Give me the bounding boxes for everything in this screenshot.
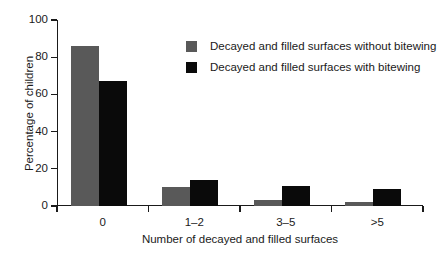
bar [282,186,310,206]
x-axis-tick-label: 0 [57,216,149,229]
x-axis-tick [56,206,57,212]
legend-item-label: Decayed and filled surfaces without bite… [210,40,436,53]
bar [254,200,282,206]
bar-chart-figure: 020406080100 01–23–5>5 Number of decayed… [0,0,438,254]
y-axis-tick-label-wrap: 100 [0,14,48,26]
y-axis-tick-label: 0 [4,200,48,212]
y-axis-tick-label-wrap: 0 [0,200,48,212]
y-axis-tick-label: 100 [4,14,48,26]
bar [162,187,190,206]
legend-swatch-icon [186,62,197,73]
x-axis-tick [422,206,423,212]
bar [71,46,99,206]
bar [190,180,218,206]
legend-item: Decayed and filled surfaces without bite… [186,38,436,55]
bar [99,81,127,206]
bar [373,189,401,206]
x-axis-title: Number of decayed and filled surfaces [57,233,423,246]
x-axis-tick [239,206,240,212]
x-axis-tick-label: >5 [332,216,424,229]
x-axis-tick-label: 1–2 [149,216,241,229]
x-axis-tick [148,206,149,212]
chart-legend: Decayed and filled surfaces without bite… [186,38,436,80]
y-axis-title: Percentage of children [23,39,36,189]
x-axis-tick [331,206,332,212]
legend-swatch-icon [186,41,197,52]
legend-item: Decayed and filled surfaces with bitewin… [186,59,436,76]
bar [345,202,373,206]
legend-item-label: Decayed and filled surfaces with bitewin… [210,61,420,74]
x-axis-tick-label: 3–5 [240,216,332,229]
